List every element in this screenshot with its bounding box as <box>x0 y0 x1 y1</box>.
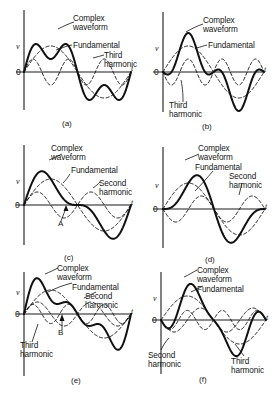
panel-b-leader-third <box>181 80 183 102</box>
panel-f-label-complex: Complex <box>197 266 229 275</box>
panel-e-label-third-1: Third <box>20 341 38 350</box>
panel-e-leader-third <box>32 324 38 342</box>
panel-f-leader-second <box>161 338 169 350</box>
panel-e-label-third-2: harmonic <box>20 350 53 359</box>
panel-a-label-third-1: Third <box>104 51 122 60</box>
panel-c-label-fundamental: Fundamental <box>71 166 118 175</box>
panel-f-leader-complex <box>184 270 197 277</box>
panel-c-caption: (c) <box>64 253 73 262</box>
panel-c-label-complex: Complex <box>51 144 83 153</box>
panel-b-label-third-1: Third <box>169 101 187 110</box>
panel-a-label-complex: Complex <box>73 14 105 23</box>
panel-e-caption: (e) <box>71 376 81 385</box>
panel-e-label-second-1: Second <box>85 292 112 301</box>
panel-a-label-waveform: waveform <box>73 23 108 32</box>
panel-c-marker-a-label: A <box>58 219 63 228</box>
panel-c-leader-fundamental <box>63 174 70 183</box>
panel-c-label-waveform: waveform <box>51 153 86 162</box>
panel-e-origin-label: 0 <box>15 309 20 319</box>
panel-b-label-fundamental: Fundamental <box>208 41 255 50</box>
panel-d-label-fundamental: Fundamental <box>195 163 242 172</box>
panel-d-y-axis-label: v <box>155 181 159 190</box>
panel-a-origin-label: 0 <box>16 67 21 77</box>
panel-c-x-axis-label: t <box>131 198 133 207</box>
panel-d-label-waveform: waveform <box>198 153 233 162</box>
panel-a: v 0 t Complex waveform Fundamental Third… <box>0 0 139 133</box>
panel-e-x-axis-label: t <box>131 307 133 316</box>
panel-b: v 0 t Complex waveform Fundamental Third… <box>139 0 278 133</box>
panel-f-origin-label: 0 <box>152 315 157 325</box>
panel-b-leader-complex <box>186 24 203 32</box>
panel-d-label-second-1: Second <box>229 172 256 181</box>
panel-d-origin-label: 0 <box>153 204 158 214</box>
panel-d: v 0 t Complex waveform Fundamental Secon… <box>139 133 278 266</box>
panel-a-y-axis-label: v <box>16 42 20 51</box>
panel-b-x-axis-label: t <box>264 65 266 74</box>
panel-f-x-axis-label: t <box>266 313 268 322</box>
panel-f: v 0 t Complex waveform Fundamental Secon… <box>139 266 278 400</box>
panel-e-leader-fundamental <box>48 283 72 292</box>
panel-e-label-second-2: harmonic <box>85 301 118 310</box>
panel-e-y-axis-label: v <box>16 288 20 297</box>
panel-b-label-complex: Complex <box>203 16 235 25</box>
panel-f-label-second-1: Second <box>148 351 175 360</box>
panel-a-label-fundamental: Fundamental <box>73 41 120 50</box>
panel-d-leader-complex <box>185 154 199 160</box>
waveform-figure: v 0 t Complex waveform Fundamental Third… <box>0 0 278 400</box>
panel-d-caption: (d) <box>205 255 215 264</box>
panel-b-label-waveform: waveform <box>203 25 238 34</box>
panel-c: v 0 t Complex waveform Fundamental Secon… <box>0 133 139 266</box>
panel-e: v 0 t Complex waveform Fundamental Secon… <box>0 266 139 400</box>
panel-a-caption: (a) <box>62 119 72 128</box>
panel-d-leader-fundamental <box>195 171 213 191</box>
panel-e-label-complex: Complex <box>57 264 89 273</box>
panel-c-label-second-2: harmonic <box>99 188 132 197</box>
panel-b-caption: (b) <box>202 122 212 131</box>
panel-b-y-axis-label: v <box>155 44 159 53</box>
panel-d-label-second-2: harmonic <box>229 181 262 190</box>
panel-c-origin-label: 0 <box>15 200 20 210</box>
panel-f-label-third-2: harmonic <box>231 366 264 375</box>
panel-b-leader-fundamental <box>196 45 207 48</box>
panel-f-caption: (f) <box>199 375 207 384</box>
panel-c-y-axis-label: v <box>16 177 20 186</box>
panel-a-leader-third <box>93 55 104 58</box>
panel-b-label-third-2: harmonic <box>169 110 202 119</box>
panel-c-label-second-1: Second <box>99 179 126 188</box>
panel-f-y-axis-label: v <box>153 294 157 303</box>
panel-e-marker-b-label: B <box>58 328 63 337</box>
panel-e-label-waveform: waveform <box>57 273 92 282</box>
panel-f-label-waveform: waveform <box>197 275 232 284</box>
panel-f-label-fundamental: Fundamental <box>197 285 244 294</box>
panel-f-label-second-2: harmonic <box>148 360 181 369</box>
panel-e-label-fundamental: Fundamental <box>72 283 119 292</box>
panel-f-label-third-1: Third <box>231 357 249 366</box>
panel-b-origin-label: 0 <box>154 67 159 77</box>
panel-d-x-axis-label: t <box>265 202 267 211</box>
panel-a-leader-complex <box>58 22 74 29</box>
panel-a-label-third-2: harmonic <box>104 60 137 69</box>
panel-d-label-complex: Complex <box>198 144 230 153</box>
